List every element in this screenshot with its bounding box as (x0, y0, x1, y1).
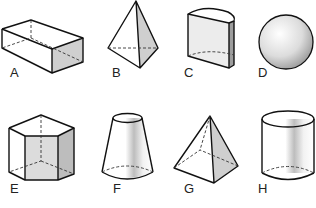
label-b: B (112, 65, 121, 80)
shape-d-sphere (259, 15, 313, 69)
shape-c-sector-prism (188, 8, 234, 68)
label-c: C (184, 65, 193, 80)
label-e: E (10, 181, 19, 196)
label-h: H (258, 181, 267, 196)
shape-g-square-pyramid (174, 116, 238, 183)
shape-b-triangular-pyramid (108, 1, 158, 68)
shape-e-pentagonal-prism (9, 115, 74, 180)
shape-h-cylinder (262, 111, 314, 180)
label-d: D (258, 65, 267, 80)
label-a: A (10, 65, 19, 80)
label-g: G (184, 181, 194, 196)
label-f: F (113, 181, 121, 196)
solids-figure: A B C D E F G H (0, 0, 316, 208)
shape-f-truncated-cone (102, 114, 153, 180)
